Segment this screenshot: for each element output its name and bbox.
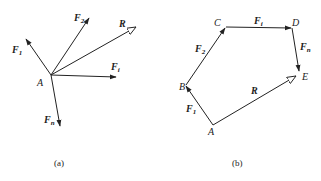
caption-a: (a) [54,158,64,168]
label-point-b: B [179,81,185,92]
label-point-a: A [36,77,44,88]
label-point-d: D [291,17,300,28]
label-f2: F2 [194,43,206,56]
vector-f2 [51,18,89,75]
label-fi: Fi [110,61,120,74]
vector-fn [292,28,299,71]
vector-r [213,76,296,125]
vector-f2 [186,28,225,85]
label-fi: Fi [253,15,263,28]
label-r: R [118,18,126,29]
label-fn: Fn [43,114,55,127]
force-polygon-diagram: F1 F2 R Fi Fn A (a) C D E B A F1 F2 Fi F… [0,0,321,181]
label-point-e: E [301,71,308,82]
panel-b: C D E B A F1 F2 Fi Fn R (b) [179,15,311,168]
label-f2: F2 [73,12,85,25]
caption-b: (b) [232,158,243,168]
vector-fi [226,27,291,28]
vector-r [51,27,136,75]
label-f1: F1 [11,44,22,57]
label-r: R [250,85,258,96]
panel-a: F1 F2 R Fi Fn A (a) [11,12,136,168]
label-fn: Fn [299,41,311,54]
vector-fi [51,75,116,77]
label-point-a: A [207,126,215,137]
label-f1: F1 [185,103,196,116]
label-point-c: C [214,17,221,28]
vector-f1 [26,39,51,75]
